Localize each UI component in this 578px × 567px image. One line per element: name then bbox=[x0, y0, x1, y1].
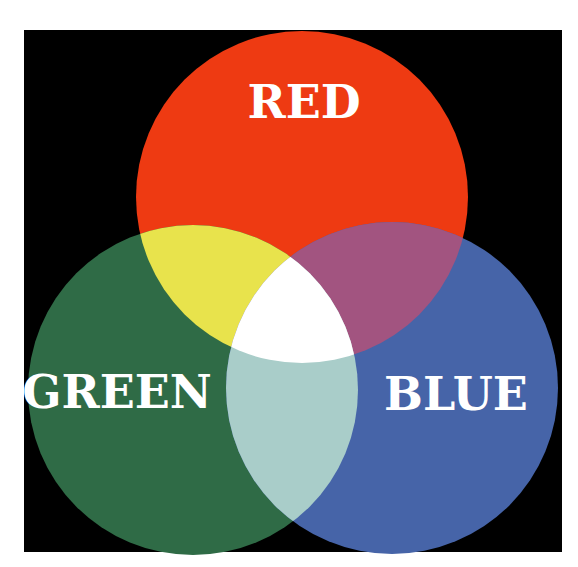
green-label: GREEN bbox=[22, 365, 212, 419]
red-label: RED bbox=[247, 75, 360, 129]
additive-color-venn-diagram: RED GREEN BLUE bbox=[0, 0, 578, 567]
blue-label: BLUE bbox=[384, 367, 528, 421]
